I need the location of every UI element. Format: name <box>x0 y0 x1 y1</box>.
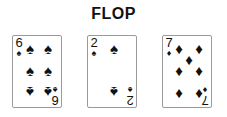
spade-icon: ♠ <box>106 85 122 100</box>
spade-icon: ♠ <box>22 85 38 100</box>
diamond-icon: ♦ <box>171 85 187 100</box>
flop-title: FLOP <box>0 5 227 23</box>
card-2-of-spades: 2♠ ♠ ♠ 2♠ <box>87 35 137 108</box>
card-index-bottom: 6♠ <box>50 85 60 106</box>
spade-icon: ♠ <box>106 41 122 56</box>
spade-icon: ♠ <box>22 41 38 56</box>
card-7-of-diamonds: 7♦ ♦ ♦ ♦ ♦ ♦ ♦ ♦ 7♦ <box>162 35 212 108</box>
spade-icon: ♠ <box>40 63 56 78</box>
card-6-of-spades: 6♠ ♠ ♠ ♠ ♠ ♠ ♠ 6♠ <box>12 35 62 108</box>
diamond-icon: ♦ <box>171 63 187 78</box>
card-index-top: 2♠ <box>89 37 99 58</box>
card-index-bottom: 7♦ <box>200 85 210 106</box>
diamond-icon: ♦ <box>191 63 207 78</box>
spade-icon: ♠ <box>22 63 38 78</box>
spade-icon: ♠ <box>40 41 56 56</box>
spade-icon: ♠ <box>89 49 99 58</box>
card-index-bottom: 2♠ <box>125 85 135 106</box>
